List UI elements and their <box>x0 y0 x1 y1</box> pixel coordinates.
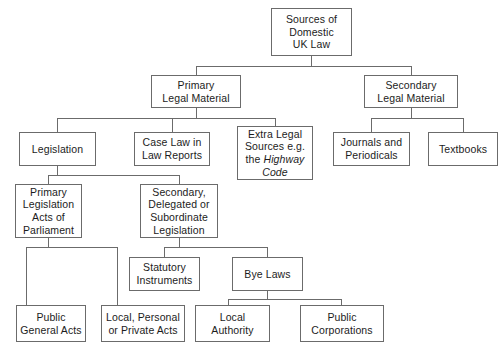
node-label: LocalAuthority <box>211 311 253 336</box>
node-label: Journals andPeriodicals <box>341 136 402 161</box>
node-textbooks: Textbooks <box>428 132 498 166</box>
node-label: Legislation <box>32 143 83 156</box>
edge-primary-bus <box>57 118 275 119</box>
edge-secleg-bus <box>164 247 267 248</box>
node-label: PublicGeneral Acts <box>20 311 81 336</box>
edge-byelaws-down <box>267 291 268 299</box>
edge-to-publicgen <box>26 247 27 305</box>
edge-primleg-bus <box>26 247 117 248</box>
edge-to-statinst <box>164 247 165 257</box>
node-local-personal-or-private-acts: Local, Personalor Private Acts <box>101 305 185 342</box>
node-label: Local, Personalor Private Acts <box>106 311 180 336</box>
diagram-canvas: Sources ofDomesticUK Law PrimaryLegal Ma… <box>0 0 504 363</box>
node-label: StatutoryInstruments <box>137 261 193 286</box>
edge-secleg-down <box>179 238 180 247</box>
node-journals-and-periodicals: Journals andPeriodicals <box>333 132 410 166</box>
edge-to-extralegal <box>275 118 276 126</box>
edge-legislation-bus <box>48 175 179 176</box>
edge-to-primleg <box>48 175 49 184</box>
node-sources-of-domestic-uk-law: Sources ofDomesticUK Law <box>271 8 352 56</box>
node-bye-laws: Bye Laws <box>232 257 303 291</box>
edge-primleg-down <box>48 238 49 247</box>
node-label: Sources ofDomesticUK Law <box>286 13 337 51</box>
edge-to-byelaws <box>267 247 268 257</box>
node-secondary-legal-material: SecondaryLegal Material <box>364 75 458 108</box>
node-local-authority: LocalAuthority <box>195 305 270 342</box>
edge-to-secleg <box>179 175 180 184</box>
edge-secondary-bus <box>371 118 463 119</box>
node-label: Secondary,Delegated orSubordinateLegisla… <box>148 186 209 236</box>
edge-to-localpers <box>117 247 118 305</box>
edge-to-textbooks <box>463 118 464 132</box>
edge-to-legislation <box>57 118 58 132</box>
node-label: SecondaryLegal Material <box>377 79 444 104</box>
edge-to-secondary <box>411 66 412 75</box>
node-statutory-instruments: StatutoryInstruments <box>129 257 200 291</box>
node-label: Textbooks <box>439 143 487 156</box>
node-extra-legal-sources: Extra LegalSources e.g.the HighwayCode <box>237 126 313 180</box>
node-legislation: Legislation <box>19 132 96 166</box>
edge-primary-down <box>196 108 197 118</box>
edge-to-journals <box>371 118 372 132</box>
node-label: Extra LegalSources e.g.the HighwayCode <box>245 128 305 178</box>
edge-secondary-down <box>411 108 412 118</box>
node-label: Bye Laws <box>244 268 290 281</box>
page-bleed-through-artifact <box>8 300 11 311</box>
node-label: Case Law inLaw Reports <box>142 136 202 161</box>
page-bleed-through-artifact <box>155 19 158 30</box>
edge-byelaws-bus <box>228 299 341 300</box>
edge-root-bus <box>196 66 412 67</box>
node-secondary-delegated-subordinate-legislation: Secondary,Delegated orSubordinateLegisla… <box>140 184 218 238</box>
node-primary-legal-material: PrimaryLegal Material <box>151 75 241 108</box>
node-label: PrimaryLegal Material <box>162 79 229 104</box>
edge-to-caselaw <box>172 118 173 132</box>
node-label: PublicCorporations <box>311 311 372 336</box>
node-case-law-in-law-reports: Case Law inLaw Reports <box>134 132 210 166</box>
node-label: PrimaryLegislationActs ofParliament <box>23 186 74 236</box>
node-public-general-acts: PublicGeneral Acts <box>16 305 86 342</box>
node-primary-legislation-acts-of-parliament: PrimaryLegislationActs ofParliament <box>15 184 82 238</box>
node-public-corporations: PublicCorporations <box>300 305 384 342</box>
edge-legislation-down <box>57 166 58 175</box>
edge-to-primary <box>196 66 197 75</box>
